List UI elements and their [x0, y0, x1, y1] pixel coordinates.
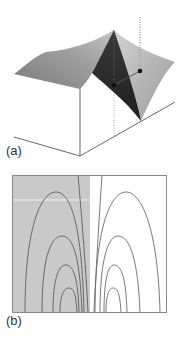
sample-point-2: [138, 69, 143, 74]
panel-label-a: (a): [6, 143, 22, 158]
floor-edge-right: [80, 102, 175, 156]
panel-a-surface-plot: (a): [0, 0, 183, 170]
contour-plot-graphic: [0, 170, 183, 339]
contours-right: [94, 175, 160, 312]
sample-point-1: [112, 83, 117, 88]
panel-label-b: (b): [6, 313, 22, 328]
surface-plot-graphic: [0, 0, 183, 170]
floor-edge-left: [14, 137, 80, 156]
surface-left-face: [14, 30, 114, 89]
panel-b-contour-plot: (b): [0, 170, 183, 339]
